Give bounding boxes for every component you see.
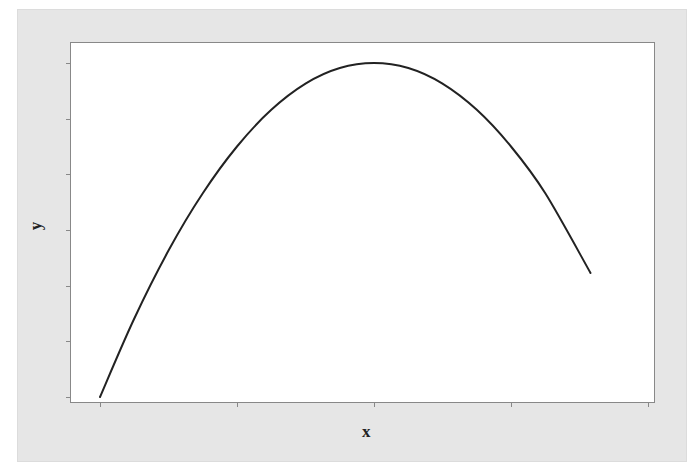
x-axis-label: x [362,422,371,442]
plot-area [71,43,655,403]
x-axis-ticks [101,403,649,408]
y-axis-label: y [26,222,46,231]
chart-plot [0,0,695,474]
y-axis-ticks [66,64,71,398]
